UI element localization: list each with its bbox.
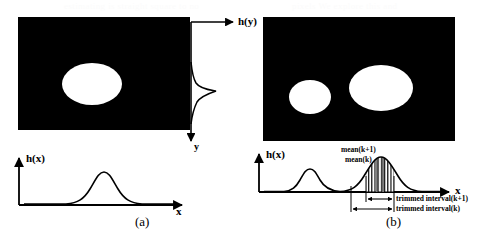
panel-b-trimmed-interval-k-plus-1-label: trimmed interval(k+1) — [396, 194, 468, 203]
panel-a-caption: (a) — [135, 214, 149, 230]
panel-b-mean-k-plus-1-label: mean(k+1) — [341, 145, 376, 154]
panel-a-ellipse-1 — [62, 63, 122, 105]
panel-b-ellipse-large — [349, 65, 413, 111]
panel-a-hy-axes — [191, 22, 233, 141]
figure-root: estimating is straight square to no pixe… — [0, 0, 481, 240]
panel-b-hx-axis-label: h(x) — [266, 148, 285, 160]
panel-a-hy-axis-label: h(y) — [238, 15, 257, 27]
panel-a-hx-axis-label: h(x) — [26, 152, 45, 164]
panel-b-ellipse-small — [289, 80, 331, 114]
panel-b-trimmed-interval-k1-marker — [366, 176, 394, 202]
panel-a-y-axis-label: y — [194, 141, 199, 152]
panel-a-hx-axes — [19, 158, 182, 205]
panel-b-caption: (b) — [386, 214, 401, 230]
panel-b-binary-image — [263, 17, 455, 141]
panel-b-mean-k-label: mean(k) — [345, 155, 372, 164]
panel-b-trimmed-interval-k-marker — [351, 186, 394, 212]
panel-b-trimmed-interval-k-label: trimmed interval(k) — [396, 204, 460, 213]
panel-a-x-axis-label: x — [176, 205, 182, 217]
ghost-text-left: estimating is straight square to no — [64, 1, 199, 11]
panel-a-hx-curve — [24, 172, 176, 204]
panel-a-hy-curve — [191, 62, 216, 124]
panel-a-binary-image — [18, 17, 190, 130]
ghost-text-right: pixels We explore this and — [292, 1, 398, 11]
